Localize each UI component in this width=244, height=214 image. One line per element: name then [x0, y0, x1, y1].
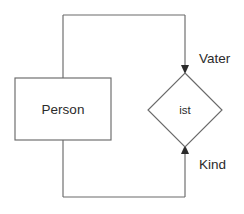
role-label-kind: Kind [199, 157, 226, 172]
role-label-vater: Vater [199, 51, 231, 66]
relationship-ist-label: ist [179, 104, 191, 116]
er-diagram-canvas: Person ist Vater Kind [0, 0, 244, 214]
entity-person-label: Person [42, 102, 85, 117]
er-diagram-svg: Person ist Vater Kind [0, 0, 244, 214]
